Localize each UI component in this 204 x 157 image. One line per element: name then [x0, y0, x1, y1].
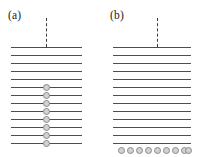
panel-b-dashed-line	[157, 18, 158, 47]
panel-a: (a)	[0, 0, 102, 157]
horizontal-line	[11, 79, 82, 80]
horizontal-line	[11, 55, 82, 56]
horizontal-line	[113, 87, 191, 88]
node-circle	[43, 140, 50, 147]
panel-a-dashed-line	[46, 18, 47, 47]
node-circle	[136, 147, 143, 154]
horizontal-line	[11, 63, 82, 64]
node-circle	[127, 147, 134, 154]
node-circle	[43, 108, 50, 115]
node-circle	[43, 132, 50, 139]
node-circle	[172, 147, 179, 154]
node-circle	[43, 84, 50, 91]
horizontal-line	[113, 111, 191, 112]
horizontal-line	[113, 47, 191, 48]
horizontal-line	[113, 95, 191, 96]
node-circle	[43, 116, 50, 123]
horizontal-line	[11, 71, 82, 72]
horizontal-line	[113, 55, 191, 56]
horizontal-line	[113, 127, 191, 128]
horizontal-line	[113, 63, 191, 64]
horizontal-line	[113, 103, 191, 104]
horizontal-line	[113, 119, 191, 120]
panel-b-label: (b)	[110, 10, 124, 22]
node-circle	[145, 147, 152, 154]
horizontal-line	[11, 47, 82, 48]
node-circle	[43, 92, 50, 99]
horizontal-line	[113, 143, 191, 144]
panel-a-label: (a)	[8, 10, 21, 22]
node-circle	[118, 147, 125, 154]
node-circle	[43, 124, 50, 131]
horizontal-line	[113, 135, 191, 136]
horizontal-line	[113, 79, 191, 80]
figure-container: (a) (b)	[0, 0, 204, 157]
horizontal-line	[113, 71, 191, 72]
node-circle	[154, 147, 161, 154]
node-circle	[43, 100, 50, 107]
panel-b: (b)	[102, 0, 204, 157]
node-circle	[185, 147, 192, 154]
node-circle	[163, 147, 170, 154]
